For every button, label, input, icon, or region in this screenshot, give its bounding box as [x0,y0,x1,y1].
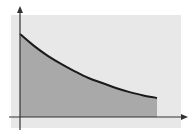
y-axis-arrow-icon [17,6,23,13]
decay-chart [0,0,191,135]
x-axis-arrow-icon [181,114,188,120]
